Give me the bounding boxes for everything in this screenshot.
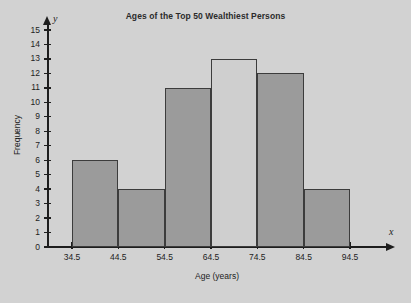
x-tick-label-54.5: 54.5 — [145, 252, 185, 262]
y-axis-arrow-icon — [43, 16, 51, 25]
y-tick-label-0: 0 — [18, 242, 40, 252]
x-tick-label-34.5: 34.5 — [52, 252, 92, 262]
y-tick-label-4: 4 — [18, 184, 40, 194]
y-tick-label-13: 13 — [18, 53, 40, 63]
y-tick-2 — [44, 217, 51, 218]
x-tick-label-44.5: 44.5 — [98, 252, 138, 262]
y-tick-0 — [44, 246, 51, 247]
x-tick-label-74.5: 74.5 — [237, 252, 277, 262]
x-axis-arrow-icon — [386, 243, 395, 251]
y-tick-8 — [44, 131, 51, 132]
y-tick-1 — [44, 232, 51, 233]
y-tick-label-2: 2 — [18, 213, 40, 223]
histogram-bar — [165, 88, 211, 247]
histogram-bar — [118, 189, 164, 247]
x-axis-variable-label: x — [389, 226, 393, 237]
histogram-bar — [211, 59, 257, 247]
histogram-bar — [257, 73, 303, 247]
y-tick-6 — [44, 160, 51, 161]
y-tick-label-14: 14 — [18, 39, 40, 49]
y-tick-7 — [44, 145, 51, 146]
plot-area: y x 0123456789101112131415 34.544.554.56… — [0, 0, 411, 303]
y-axis-variable-label: y — [53, 13, 57, 24]
y-tick-label-1: 1 — [18, 227, 40, 237]
y-tick-4 — [44, 188, 51, 189]
x-axis-title: Age (years) — [47, 271, 387, 281]
x-tick-label-94.5: 94.5 — [330, 252, 370, 262]
x-tick-label-64.5: 64.5 — [191, 252, 231, 262]
x-tick-label-84.5: 84.5 — [284, 252, 324, 262]
y-tick-9 — [44, 116, 51, 117]
y-tick-label-15: 15 — [18, 25, 40, 35]
y-tick-13 — [44, 58, 51, 59]
y-tick-14 — [44, 44, 51, 45]
histogram-chart: Ages of the Top 50 Wealthiest Persons y … — [0, 0, 411, 303]
y-axis-title: Frequency — [12, 90, 22, 180]
y-tick-10 — [44, 102, 51, 103]
y-tick-5 — [44, 174, 51, 175]
y-tick-label-3: 3 — [18, 198, 40, 208]
y-tick-3 — [44, 203, 51, 204]
y-tick-15 — [44, 29, 51, 30]
y-tick-12 — [44, 73, 51, 74]
histogram-bar — [304, 189, 350, 247]
y-tick-label-12: 12 — [18, 68, 40, 78]
histogram-bar — [72, 160, 118, 247]
y-tick-11 — [44, 87, 51, 88]
